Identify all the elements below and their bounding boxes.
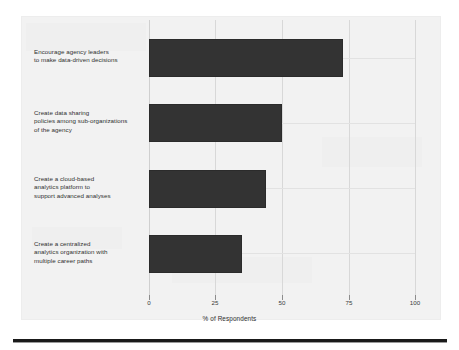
xtick-label-75: 75: [346, 299, 353, 306]
category-label-3: Create a cloud-based analytics platform …: [34, 175, 146, 200]
xtick-label-50: 50: [279, 299, 286, 306]
plot-area: [149, 20, 415, 295]
chart-figure: Encourage agency leaders to make data-dr…: [0, 0, 459, 350]
xtick-label-0: 0: [147, 299, 150, 306]
category-label-2-line-2: policies among sub-organizations: [34, 117, 146, 125]
category-label-1-line-1: Encourage agency leaders: [34, 48, 146, 56]
page-bottom-rule-shadow: [13, 342, 447, 343]
category-label-2-line-3: of the agency: [34, 126, 146, 134]
bar-2: [149, 104, 282, 142]
bar-1: [149, 39, 343, 77]
bar-4: [149, 235, 242, 273]
x-axis-title: % of Respondents: [0, 315, 459, 322]
category-label-3-line-2: analytics platform to: [34, 183, 146, 191]
category-label-1-line-2: to make data-driven decisions: [34, 56, 146, 64]
category-label-3-line-1: Create a cloud-based: [34, 175, 146, 183]
category-label-2: Create data sharing policies among sub-o…: [34, 109, 146, 134]
category-label-4-line-1: Create a centralized: [34, 240, 146, 248]
category-label-4: Create a centralized analytics organizat…: [34, 240, 146, 265]
category-label-4-line-2: analytics organization with: [34, 248, 146, 256]
xtick-label-25: 25: [212, 299, 219, 306]
category-label-2-line-1: Create data sharing: [34, 109, 146, 117]
category-label-4-line-3: multiple career paths: [34, 257, 146, 265]
category-label-3-line-3: support advanced analyses: [34, 192, 146, 200]
category-label-1: Encourage agency leaders to make data-dr…: [34, 48, 146, 65]
gridline-100: [415, 20, 416, 295]
xtick-label-100: 100: [410, 299, 420, 306]
bar-3: [149, 170, 266, 208]
